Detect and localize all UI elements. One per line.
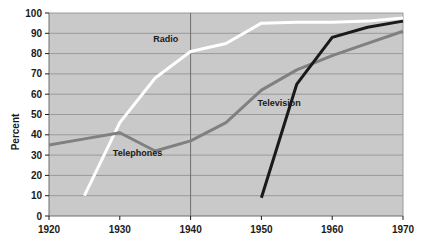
series-label-radio: Radio xyxy=(153,34,179,44)
x-tick-label-1930: 1930 xyxy=(109,224,132,235)
y-tick-label-60: 60 xyxy=(31,89,43,100)
y-tick-label-10: 10 xyxy=(31,190,43,201)
y-tick-label-50: 50 xyxy=(31,109,43,120)
y-tick-label-30: 30 xyxy=(31,150,43,161)
y-tick-label-100: 100 xyxy=(25,8,42,19)
y-axis-title: Percent xyxy=(10,113,21,150)
y-tick-label-40: 40 xyxy=(31,129,43,140)
x-tick-label-1970: 1970 xyxy=(392,224,415,235)
series-label-telephones: Telephones xyxy=(113,148,162,158)
line-chart: 0102030405060708090100 19201930194019501… xyxy=(0,0,421,246)
x-axis-ticks: 192019301940195019601970 xyxy=(38,216,415,235)
y-tick-label-70: 70 xyxy=(31,68,43,79)
y-axis-ticks: 0102030405060708090100 xyxy=(25,8,49,222)
x-tick-label-1960: 1960 xyxy=(321,224,344,235)
y-tick-label-0: 0 xyxy=(36,211,42,222)
y-tick-label-20: 20 xyxy=(31,170,43,181)
x-tick-label-1940: 1940 xyxy=(179,224,202,235)
y-tick-label-90: 90 xyxy=(31,28,43,39)
x-tick-label-1950: 1950 xyxy=(250,224,273,235)
y-tick-label-80: 80 xyxy=(31,48,43,59)
x-tick-label-1920: 1920 xyxy=(38,224,61,235)
chart-figure: 0102030405060708090100 19201930194019501… xyxy=(0,0,421,246)
series-label-television: Television xyxy=(257,98,300,108)
